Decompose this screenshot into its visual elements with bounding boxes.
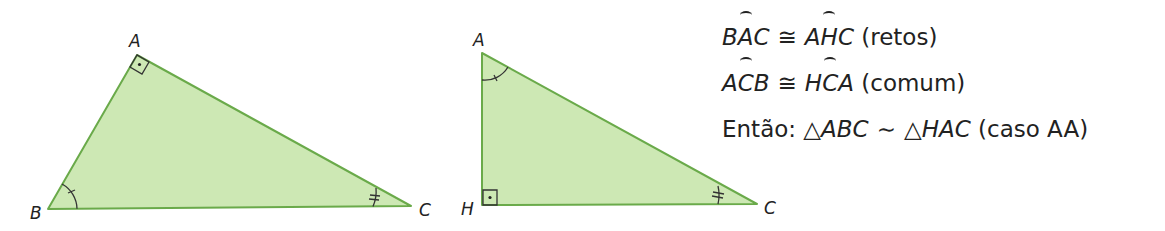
triangle-hac-name: HAC (922, 116, 971, 142)
triangle-hac (482, 53, 757, 205)
triangle-symbol: △ (904, 116, 922, 142)
note-caso-aa: (caso AA) (978, 116, 1088, 142)
triangle-abc-name: ABC (821, 116, 869, 142)
triangle-symbol: △ (803, 116, 821, 142)
conclusion-prefix: Então: (722, 116, 803, 142)
angle-bac: BAC (722, 24, 770, 50)
equations-block: BAC≅AHC (retos) ACB≅HCA (comum) Então: △… (722, 14, 1088, 152)
label-h-hac: H (461, 199, 474, 219)
note-retos: (retos) (861, 24, 937, 50)
label-a-abc: A (128, 31, 141, 51)
angle-ahc: AHC (805, 24, 854, 50)
label-c-hac: C (764, 198, 776, 218)
congruent-symbol: ≅ (770, 70, 805, 96)
equation-comum: ACB≅HCA (comum) (722, 60, 1088, 106)
triangles-figure: A B C A H C (0, 0, 800, 231)
label-b-abc: B (30, 203, 42, 223)
angle-acb: ACB (722, 70, 770, 96)
conclusion: Então: △ABC∼△HAC (caso AA) (722, 106, 1088, 152)
congruent-symbol: ≅ (770, 24, 805, 50)
angle-hca: HCA (805, 70, 854, 96)
equation-retos: BAC≅AHC (retos) (722, 14, 1088, 60)
similar-symbol: ∼ (869, 116, 904, 142)
label-a-hac: A (472, 30, 485, 50)
triangle-abc (48, 55, 411, 209)
note-comum: (comum) (861, 70, 965, 96)
label-c-abc: C (419, 200, 431, 220)
